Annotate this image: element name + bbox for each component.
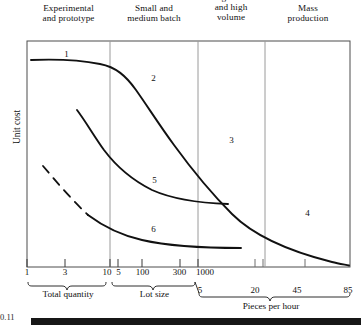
chart-figure: Experimental and prototype Small and med… (0, 0, 361, 325)
tick-label-pph-85: 85 (341, 286, 355, 296)
tick-label-tq-3: 3 (60, 268, 70, 278)
tick-label-pph-5: 5 (195, 286, 205, 296)
tick-label-pph-45: 45 (290, 286, 304, 296)
tick-label-lot-300: 300 (170, 268, 189, 278)
curve-label-4: 4 (303, 209, 312, 219)
tick-label-lot-5: 5 (114, 268, 123, 278)
plot-frame (27, 41, 350, 267)
tick-label-lot-100: 100 (133, 268, 152, 278)
axis-caption-pieces-per-hour: Pieces per hour (232, 302, 310, 312)
page-number: 0.11 (0, 312, 15, 322)
axis-caption-total-quantity: Total quantity (33, 290, 103, 300)
tick-label-lot-1000: 1000 (193, 268, 217, 278)
curve-label-1: 1 (62, 50, 71, 60)
curve-main-1234 (31, 60, 349, 266)
curve-6-dashed-leadin (43, 166, 88, 215)
curve-5 (77, 110, 228, 204)
curve-label-2: 2 (149, 74, 158, 84)
axis-caption-lot-size: Lot size (127, 290, 182, 300)
page-bottom-bar (31, 318, 361, 325)
curve-label-5: 5 (150, 176, 159, 186)
tick-label-tq-10: 10 (100, 268, 114, 278)
tick-label-tq-1: 1 (22, 268, 32, 278)
brace-pieces-per-hour (199, 293, 350, 301)
curve-6 (88, 215, 241, 248)
tick-label-pph-20: 20 (248, 286, 262, 296)
curve-label-6: 6 (149, 225, 158, 235)
curve-label-3: 3 (227, 136, 236, 146)
